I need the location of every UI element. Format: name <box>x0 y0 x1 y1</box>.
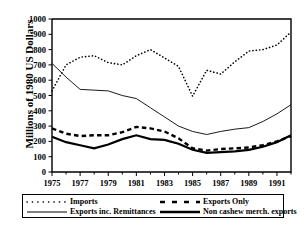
x-tick-label: 1989 <box>240 178 257 188</box>
y-axis-ticks: 01002003004005006007008009001000 <box>29 14 52 177</box>
legend-label-exports-inc-remittances: Exports inc. Remittances <box>70 207 156 216</box>
y-tick-label: 300 <box>33 121 46 131</box>
chart-legend: Imports Exports inc. Remittances Exports… <box>22 194 284 218</box>
legend-entry-non-cashew-merch-exports: Non cashew merch. exports <box>159 206 283 217</box>
y-tick-label: 700 <box>33 60 46 70</box>
data-series-group <box>52 32 291 153</box>
legend-label-imports: Imports <box>70 197 98 206</box>
dotted-line-swatch-icon <box>26 197 68 207</box>
bold-dashed-line-swatch-icon <box>159 197 201 207</box>
x-tick-label: 1975 <box>44 178 61 188</box>
x-tick-label: 1979 <box>100 178 117 188</box>
y-tick-label: 500 <box>33 91 46 101</box>
x-tick-label: 1991 <box>268 178 285 188</box>
legend-column-right: Exports Only Non cashew merch. exports <box>159 195 283 217</box>
y-tick-label: 600 <box>33 75 46 85</box>
legend-label-non-cashew-merch-exports: Non cashew merch. exports <box>203 207 297 216</box>
series-line-imports <box>52 32 291 96</box>
x-tick-label: 1981 <box>128 178 145 188</box>
x-axis-ticks: 197519771979198119831985198719891991 <box>44 172 292 188</box>
x-tick-label: 1987 <box>212 178 230 188</box>
y-tick-label: 1000 <box>29 14 46 24</box>
series-line-non-cashew-merch-exports <box>52 135 291 153</box>
legend-column-left: Imports Exports inc. Remittances <box>26 195 154 217</box>
y-tick-label: 900 <box>33 29 46 39</box>
x-tick-label: 1983 <box>156 178 173 188</box>
y-tick-label: 0 <box>42 167 46 177</box>
legend-label-exports-only: Exports Only <box>203 197 249 206</box>
series-line-exports-inc-remittances <box>52 63 291 134</box>
bold-solid-line-swatch-icon <box>159 207 201 217</box>
x-tick-label: 1977 <box>72 178 90 188</box>
y-tick-label: 100 <box>33 152 46 162</box>
y-tick-label: 200 <box>33 136 46 146</box>
legend-entry-exports-inc-remittances: Exports inc. Remittances <box>26 206 154 217</box>
y-tick-label: 400 <box>33 106 46 116</box>
y-tick-label: 800 <box>33 45 46 55</box>
x-tick-label: 1985 <box>184 178 201 188</box>
thin-solid-line-swatch-icon <box>26 207 68 217</box>
chart-figure: Millions of 1980 US Dollars 010020030040… <box>0 0 305 230</box>
